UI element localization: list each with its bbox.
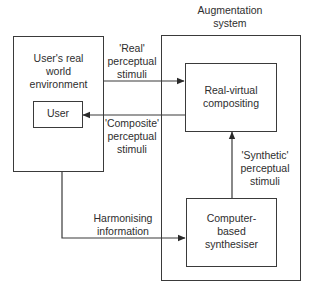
harmonising-information-label: Harmonising information (84, 212, 162, 238)
real-world-environment-label: User's real world environment (14, 52, 103, 91)
user-label: User (33, 107, 83, 120)
synthetic-stimuli-label: 'Synthetic' perceptual stimuli (233, 149, 297, 188)
real-stimuli-label: 'Real' perceptual stimuli (100, 42, 164, 81)
real-virtual-compositing-label: Real-virtual compositing (185, 84, 277, 110)
composite-stimuli-label: 'Composite' perceptual stimuli (99, 117, 165, 156)
computer-based-synthesiser-label: Computer- based synthesiser (186, 212, 277, 251)
augmentation-system-title: Augmentation system (170, 4, 290, 30)
